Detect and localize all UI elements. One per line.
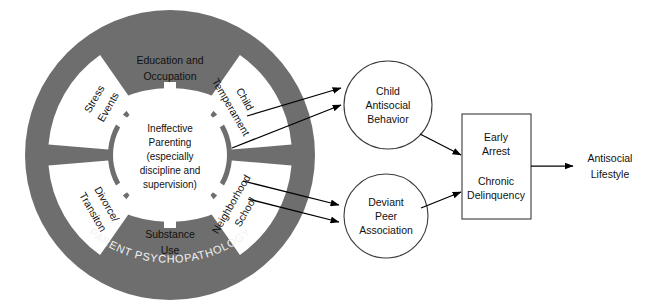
child-antisocial-line-2: Antisocial <box>366 99 411 111</box>
antisocial-lifestyle-line-1: Antisocial <box>588 152 633 164</box>
antisocial-lifestyle-line-2: Lifestyle <box>591 168 630 180</box>
node-early-arrest-chronic-delinquency[interactable]: Early Arrest Chronic Delinquency <box>462 114 531 219</box>
parent-psychopathology-wheel: Ineffective Parenting (especially discip… <box>25 10 315 300</box>
deviant-peer-line-2: Peer <box>375 210 398 222</box>
label-education-line-1: Education and <box>136 54 203 66</box>
chronic-delinquency-line-1: Chronic <box>478 175 514 187</box>
hub-line-5: supervision) <box>143 179 197 190</box>
link-child-antisocial-to-box <box>420 134 461 155</box>
chronic-delinquency-line-2: Delinquency <box>467 189 526 201</box>
label-substance-line-1: Substance <box>145 228 195 240</box>
hub-label: Ineffective Parenting (especially discip… <box>140 123 201 190</box>
node-deviant-peer-association[interactable]: Deviant Peer Association <box>344 174 428 258</box>
link-deviant-peer-to-box <box>421 192 461 208</box>
deviant-peer-line-1: Deviant <box>368 196 404 208</box>
hub-line-1: Ineffective <box>147 123 193 134</box>
early-arrest-line-2: Arrest <box>482 145 510 157</box>
deviant-peer-line-3: Association <box>359 224 413 236</box>
node-child-antisocial-behavior[interactable]: Child Antisocial Behavior <box>344 61 432 149</box>
node-to-box-connectors <box>420 134 461 208</box>
early-arrest-line-1: Early <box>484 131 509 143</box>
child-antisocial-line-3: Behavior <box>367 113 409 125</box>
label-education-line-2: Occupation <box>143 70 196 82</box>
node-antisocial-lifestyle: Antisocial Lifestyle <box>588 152 633 180</box>
hub-line-2: Parenting <box>149 137 192 148</box>
early-arrest-box[interactable] <box>462 114 531 219</box>
diagram-canvas: Ineffective Parenting (especially discip… <box>0 0 654 308</box>
hub-line-4: discipline and <box>140 165 201 176</box>
child-antisocial-line-1: Child <box>376 85 400 97</box>
hub-line-3: (especially <box>146 151 193 162</box>
